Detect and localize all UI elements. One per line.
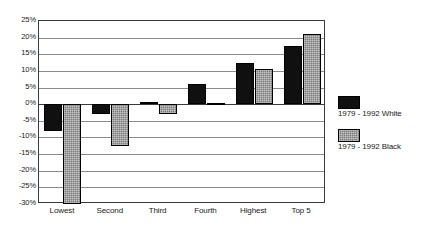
bar-group [39, 21, 87, 202]
y-axis-tick-label: -10% [0, 132, 36, 140]
x-axis-tick-label: Second [86, 207, 134, 215]
bar-group [135, 21, 183, 202]
bar-group [183, 21, 231, 202]
legend-item: 1979 - 1992 Black [338, 129, 422, 151]
y-axis-tick-label: -30% [0, 199, 36, 207]
y-axis-tick-label: 25% [0, 16, 36, 24]
x-axis-tick-label: Highest [229, 207, 277, 215]
y-axis-tick-label: 0% [0, 99, 36, 107]
bar [44, 104, 62, 131]
legend: 1979 - 1992 White1979 - 1992 Black [338, 96, 422, 162]
bar-group [87, 21, 135, 202]
x-axis-tick-label: Third [134, 207, 182, 215]
y-axis-tick-label: -15% [0, 149, 36, 157]
legend-swatch [338, 96, 360, 109]
bar [207, 103, 225, 105]
bar [255, 69, 273, 104]
x-axis-tick-label: Top 5 [277, 207, 325, 215]
bar [140, 102, 158, 104]
bar [159, 104, 177, 114]
legend-item: 1979 - 1992 White [338, 96, 422, 118]
y-axis-tick-label: 15% [0, 49, 36, 57]
bar [236, 63, 254, 105]
y-axis-tick-label: -5% [0, 116, 36, 124]
bar [303, 34, 321, 104]
y-axis-tick-label: 5% [0, 83, 36, 91]
y-axis-tick-label: -25% [0, 182, 36, 190]
y-axis-tick-label: 10% [0, 66, 36, 74]
bar [188, 84, 206, 104]
plot-area [38, 20, 325, 203]
bar [284, 46, 302, 104]
legend-label: 1979 - 1992 Black [338, 143, 422, 151]
x-axis-tick-label: Lowest [38, 207, 86, 215]
legend-label: 1979 - 1992 White [338, 110, 422, 118]
bar [92, 104, 110, 114]
legend-swatch [338, 129, 360, 142]
bar [111, 104, 129, 146]
bar-group [230, 21, 278, 202]
y-axis-tick-label: -20% [0, 166, 36, 174]
x-axis-tick-label: Fourth [182, 207, 230, 215]
bar [63, 104, 81, 204]
bar-chart: 25%20%15%10%5%0%-5%-10%-15%-20%-25%-30% … [0, 0, 422, 230]
bar-group [278, 21, 326, 202]
y-axis-tick-label: 20% [0, 33, 36, 41]
